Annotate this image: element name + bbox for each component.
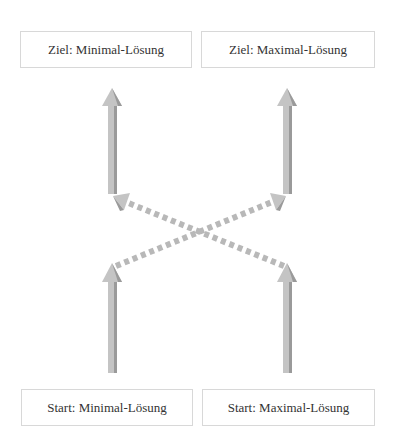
arrow-up-start-max-icon — [277, 263, 297, 373]
arrow-diagram — [0, 0, 397, 448]
arrow-up-goal-min-icon — [102, 88, 122, 194]
arrow-up-goal-max-icon — [277, 88, 297, 194]
arrow-up-start-min-icon — [102, 263, 122, 373]
dotted-arrow-start-min-to-goal-max-icon — [116, 193, 286, 266]
